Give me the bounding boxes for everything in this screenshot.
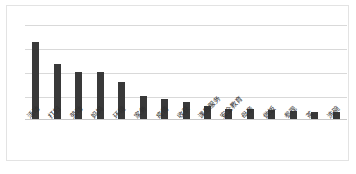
bar-chart-figure: 活动打扫劳动妈妈环境家务疫情收获课后服务安全教育母亲做饭参观茶洗碗 [0, 0, 356, 174]
category-labels-layer: 活动打扫劳动妈妈环境家务疫情收获课后服务安全教育母亲做饭参观茶洗碗 [18, 115, 340, 170]
